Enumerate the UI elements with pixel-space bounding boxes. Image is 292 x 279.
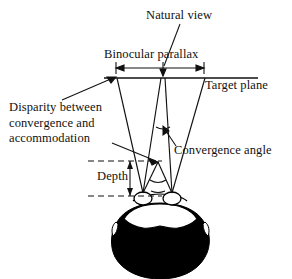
label-natural-view: Natural view <box>146 8 212 23</box>
depth-arrowhead-top <box>127 161 133 169</box>
angle-arc-eye-convergence <box>151 191 165 193</box>
label-binocular-parallax: Binocular parallax <box>104 47 198 62</box>
right-eye <box>163 192 181 205</box>
angle-arc-convergence <box>150 180 166 183</box>
line-right-eye-to-right-target <box>172 78 205 193</box>
binocular-parallax-measure <box>116 62 204 76</box>
head-group <box>111 192 209 279</box>
label-disparity-line-3: accommodation <box>9 131 102 147</box>
label-depth: Depth <box>97 169 128 184</box>
depth-arrowhead-bottom <box>127 188 133 196</box>
parallax-arrowhead-right <box>196 65 204 71</box>
line-left-eye-to-center-target <box>143 78 161 193</box>
parallax-center-arrowhead <box>160 69 166 76</box>
label-disparity-line-2: convergence and <box>9 116 102 132</box>
diagram-binocular-parallax: Natural view Binocular parallax Target p… <box>0 0 292 279</box>
label-target-plane: Target plane <box>205 78 268 93</box>
label-disparity-line-1: Disparity between <box>9 100 102 116</box>
parallax-arrowhead-left <box>116 65 124 71</box>
label-disparity-block: Disparity between convergence and accomm… <box>9 100 102 147</box>
label-convergence-angle: Convergence angle <box>174 143 272 158</box>
left-eye <box>134 192 152 205</box>
leader-disparity <box>62 78 113 100</box>
